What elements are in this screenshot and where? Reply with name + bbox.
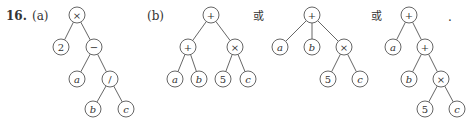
- node-label: +: [308, 10, 316, 21]
- node-label: 2: [58, 42, 64, 53]
- tree-edge: [332, 54, 341, 72]
- expression-tree-a: ×2−a/bc: [53, 7, 134, 117]
- node-label: a: [172, 74, 178, 85]
- tree-edge: [429, 54, 438, 72]
- node-label: ×: [340, 42, 348, 53]
- tree-node: 5: [215, 71, 231, 87]
- node-label: +: [207, 10, 215, 21]
- expression-tree-b2: +ab×5c: [272, 7, 368, 87]
- tree-edge: [238, 54, 245, 71]
- expression-trees-figure: ×2−a/bc++×ab5c+ab×5c+a+b×5c: [0, 0, 474, 122]
- tree-node: b: [191, 71, 207, 87]
- node-label: c: [357, 74, 363, 85]
- node-label: 5: [325, 74, 331, 85]
- tree-node: a: [167, 71, 183, 87]
- tree-edge: [286, 21, 307, 42]
- tree-node: b: [85, 101, 101, 117]
- tree-edge: [445, 86, 453, 102]
- tree-edge: [191, 55, 197, 72]
- tree-node: +: [203, 7, 219, 23]
- tree-node: a: [385, 39, 401, 55]
- tree-node: ×: [336, 39, 352, 55]
- tree-node: c: [240, 71, 256, 87]
- tree-node: a: [272, 39, 288, 55]
- tree-node: 2: [53, 39, 69, 55]
- tree-node: +: [304, 7, 320, 23]
- tree-edge: [114, 86, 122, 102]
- node-label: b: [196, 74, 202, 85]
- tree-edge: [226, 54, 232, 71]
- tree-edge: [193, 21, 207, 40]
- node-label: 5: [422, 104, 428, 115]
- expression-tree-b3: +a+b×5c: [385, 7, 465, 117]
- node-label: ×: [73, 10, 81, 21]
- tree-edge: [348, 54, 357, 72]
- tree-edge: [318, 21, 339, 42]
- node-label: b: [90, 104, 96, 115]
- tree-edge: [216, 21, 230, 40]
- tree-node: b: [304, 39, 320, 55]
- tree-edge: [413, 22, 422, 40]
- node-label: a: [390, 42, 396, 53]
- tree-node: a: [69, 71, 85, 87]
- tree-node: −: [86, 39, 102, 55]
- node-label: c: [454, 104, 460, 115]
- tree-node: c: [352, 71, 368, 87]
- node-label: +: [421, 42, 429, 53]
- node-label: c: [245, 74, 251, 85]
- tree-edge: [429, 86, 437, 102]
- node-label: 5: [220, 74, 226, 85]
- node-label: c: [123, 104, 129, 115]
- tree-node: +: [417, 39, 433, 55]
- tree-edge: [178, 54, 185, 71]
- node-label: +: [405, 10, 413, 21]
- tree-edge: [98, 54, 107, 72]
- tree-node: ×: [227, 39, 243, 55]
- tree-node: 5: [417, 101, 433, 117]
- node-label: +: [184, 42, 192, 53]
- tree-node: c: [449, 101, 465, 117]
- tree-node: 5: [320, 71, 336, 87]
- node-label: ×: [437, 74, 445, 85]
- expression-tree-b1: ++×ab5c: [167, 7, 256, 87]
- tree-node: ×: [433, 71, 449, 87]
- tree-edge: [65, 22, 74, 40]
- node-label: −: [90, 42, 98, 53]
- tree-node: +: [180, 39, 196, 55]
- node-label: a: [277, 42, 283, 53]
- tree-edge: [81, 22, 90, 40]
- tree-node: /: [102, 71, 118, 87]
- tree-node: b: [401, 71, 417, 87]
- node-label: b: [406, 74, 412, 85]
- tree-node: c: [118, 101, 134, 117]
- tree-node: +: [401, 7, 417, 23]
- node-label: ×: [231, 42, 239, 53]
- tree-edge: [397, 22, 406, 40]
- tree-edge: [97, 86, 106, 102]
- node-label: b: [309, 42, 315, 53]
- tree-edge: [413, 54, 422, 72]
- tree-node: ×: [69, 7, 85, 23]
- tree-edge: [81, 54, 90, 72]
- node-label: a: [74, 74, 80, 85]
